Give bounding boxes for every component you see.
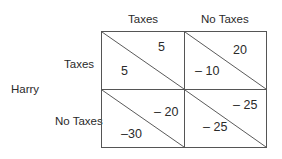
payoff-lower: –30 xyxy=(121,127,142,141)
payoff-cell-taxes-taxes: 5 5 xyxy=(101,31,185,90)
payoff-upper: 5 xyxy=(158,40,165,54)
column-header-taxes: Taxes xyxy=(128,13,158,25)
payoff-cell-taxes-notaxes: 20 – 10 xyxy=(184,31,267,90)
payoff-lower: 5 xyxy=(121,64,128,78)
row-player-label: Harry xyxy=(11,83,39,95)
payoff-matrix: 5 5 20 – 10 – 20 –30 – 25 – 25 xyxy=(101,31,267,148)
row-header-no-taxes: No Taxes xyxy=(55,115,103,127)
column-header-no-taxes: No Taxes xyxy=(201,13,249,25)
diagonal-line xyxy=(185,32,266,89)
row-header-taxes: Taxes xyxy=(64,58,94,70)
payoff-lower: – 10 xyxy=(195,64,219,78)
diagonal-line xyxy=(102,32,184,89)
payoff-upper: – 20 xyxy=(154,105,178,119)
payoff-cell-notaxes-taxes: – 20 –30 xyxy=(101,89,185,148)
payoff-upper: – 25 xyxy=(233,98,257,112)
payoff-upper: 20 xyxy=(233,43,247,57)
payoff-cell-notaxes-notaxes: – 25 – 25 xyxy=(184,89,267,148)
payoff-lower: – 25 xyxy=(203,120,227,134)
